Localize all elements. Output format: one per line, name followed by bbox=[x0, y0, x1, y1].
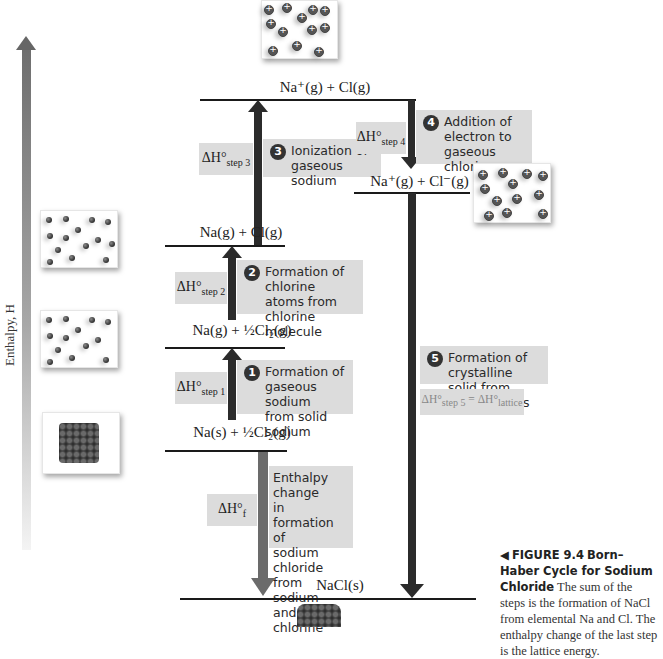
sodium-ion-icon bbox=[492, 196, 502, 206]
chlorine-atom-icon bbox=[337, 17, 347, 27]
chlorine-atom-icon bbox=[139, 263, 148, 272]
chlorine-molecule-icon bbox=[121, 439, 130, 451]
chlorine-molecule-icon bbox=[123, 335, 132, 347]
sodium-ion-icon bbox=[498, 168, 508, 178]
chlorine-molecule-icon bbox=[141, 451, 150, 463]
sodium-ion-icon bbox=[292, 41, 302, 51]
sodium-chloride-crystal-icon bbox=[297, 604, 341, 627]
chloride-ion-icon bbox=[525, 227, 533, 235]
chlorine-atom-icon bbox=[153, 233, 162, 242]
sodium-atom-icon bbox=[95, 337, 101, 343]
formation-arrow bbox=[258, 452, 268, 580]
chlorine-molecule-icon bbox=[157, 459, 164, 471]
dh-step-1-label: ΔH°step 1 bbox=[175, 372, 227, 404]
sodium-atom-icon bbox=[105, 319, 111, 325]
chloride-ion-icon bbox=[581, 187, 593, 199]
sodium-ion-icon bbox=[512, 194, 522, 204]
step-2-number-badge: 2 bbox=[244, 265, 260, 281]
chlorine-molecule-icon bbox=[155, 357, 162, 369]
level-label-na-g-half-cl2: Na(g) + ½Cl₂(g) bbox=[186, 322, 298, 339]
enthalpy-axis-label: Enthalpy, H bbox=[2, 304, 18, 366]
sodium-atom-icon bbox=[89, 317, 95, 323]
sodium-ion-icon bbox=[266, 19, 276, 29]
level-line-na-s-half-cl2 bbox=[165, 450, 287, 452]
chlorine-atom-icon bbox=[93, 275, 100, 282]
solid-sodium-panel bbox=[42, 412, 120, 474]
step-2-line-2: chlorine atoms from bbox=[265, 279, 355, 309]
sodium-ion-icon bbox=[320, 23, 330, 33]
sodium-atom-icon bbox=[55, 247, 61, 253]
chlorine-molecule-icon bbox=[93, 475, 103, 484]
step-5-arrow bbox=[408, 193, 416, 587]
step-2-arrow bbox=[228, 256, 236, 320]
step-2-line-1: Formation of bbox=[265, 264, 355, 279]
chlorine-atom-icon bbox=[139, 245, 148, 254]
sodium-solid-crystal-icon bbox=[59, 423, 99, 463]
sodium-ion-icon bbox=[278, 27, 288, 37]
na-ion-panel bbox=[261, 0, 338, 59]
dh-step-4-label: ΔH°step 4 bbox=[356, 122, 406, 154]
level-label-na-plus-cl-minus: Na⁺(g) + Cl⁻(g) bbox=[362, 172, 477, 190]
sodium-atom-icon bbox=[63, 216, 69, 222]
up-arrow-icon bbox=[248, 100, 268, 112]
step-1-line-1: Formation of bbox=[265, 364, 345, 379]
sodium-ion-icon bbox=[282, 3, 292, 13]
sodium-atom-icon bbox=[47, 359, 53, 365]
level-label-na-plus-cl: Na⁺(g) + Cl(g) bbox=[250, 78, 400, 96]
step-5-description: 5 Formation of crystalline solid from ga… bbox=[420, 346, 548, 384]
sodium-ion-icon bbox=[297, 13, 307, 23]
step-4-line-2: electron to gaseous bbox=[444, 129, 524, 159]
sodium-ion-icon bbox=[502, 208, 512, 218]
na-atom-panel-2 bbox=[40, 310, 118, 368]
step-3-number-badge: 3 bbox=[270, 144, 286, 160]
sodium-ion-icon bbox=[480, 184, 490, 194]
chloride-ion-icon bbox=[569, 213, 581, 225]
chloride-ion-icon bbox=[551, 223, 563, 235]
down-arrow-icon bbox=[251, 578, 275, 596]
chlorine-molecule-icon bbox=[149, 331, 158, 343]
step-1-arrow bbox=[228, 358, 236, 420]
level-line-na-plus-cl bbox=[200, 99, 416, 101]
sodium-ion-icon bbox=[320, 6, 330, 16]
chlorine-atom-icon bbox=[371, 17, 381, 27]
sodium-atom-icon bbox=[63, 316, 69, 322]
step-1-line-2: gaseous sodium bbox=[265, 379, 345, 409]
chlorine-atom-icon bbox=[357, 31, 367, 41]
sodium-ion-icon bbox=[484, 211, 494, 221]
sodium-ion-icon bbox=[538, 209, 548, 219]
sodium-atom-icon bbox=[109, 241, 115, 247]
sodium-ion-icon bbox=[478, 170, 488, 180]
level-line-nacl-s bbox=[180, 598, 476, 600]
chloride-ion-icon bbox=[577, 225, 589, 237]
chlorine-molecule-icon bbox=[151, 433, 160, 445]
down-arrow-icon bbox=[400, 584, 424, 598]
step-4-number-badge: 4 bbox=[423, 115, 439, 131]
chlorine-molecule-icon bbox=[125, 357, 134, 369]
sodium-atom-icon bbox=[69, 355, 75, 361]
sodium-atom-icon bbox=[95, 237, 101, 243]
sodium-ion-icon bbox=[268, 46, 278, 56]
formation-line-2: in formation of bbox=[273, 500, 345, 545]
sodium-atom-icon bbox=[47, 233, 53, 239]
chlorine-atom-icon bbox=[153, 251, 162, 260]
chlorine-atom-icon bbox=[361, 63, 371, 73]
up-arrow-icon bbox=[16, 36, 36, 50]
step-5-number-badge: 5 bbox=[427, 351, 443, 367]
step-3-line-2: gaseous sodium bbox=[291, 158, 373, 188]
sodium-atom-icon bbox=[75, 227, 81, 233]
dh-step-2-label: ΔH°step 2 bbox=[175, 272, 227, 304]
chlorine-molecule-icon bbox=[95, 371, 105, 380]
sodium-ion-icon bbox=[307, 25, 317, 35]
chlorine-molecule-icon bbox=[141, 347, 150, 359]
chlorine-atom-icon bbox=[125, 233, 134, 242]
na-atom-panel bbox=[40, 210, 118, 268]
formation-description: Enthalpy change in formation of sodium c… bbox=[269, 466, 353, 548]
level-label-nacl-s: NaCl(s) bbox=[300, 577, 380, 594]
sodium-atom-icon bbox=[83, 243, 89, 249]
chlorine-atom-icon bbox=[347, 49, 357, 59]
up-arrow-icon bbox=[222, 348, 242, 360]
sodium-atom-icon bbox=[63, 235, 69, 241]
sodium-atom-icon bbox=[103, 357, 109, 363]
figure-number: FIGURE 9.4 bbox=[512, 548, 584, 562]
chloride-ion-icon bbox=[551, 209, 563, 221]
